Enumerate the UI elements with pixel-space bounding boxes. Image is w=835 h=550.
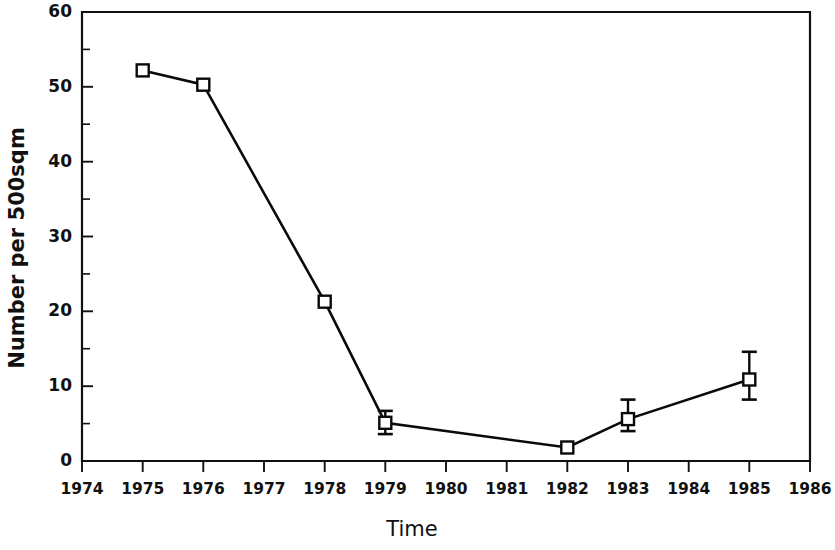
data-point-1979	[379, 417, 391, 429]
y-tick-label-30: 30	[48, 226, 72, 246]
chart-figure: 0 10 20 30 40 50 60 1974 1975	[0, 0, 835, 550]
line-chart-svg: 0 10 20 30 40 50 60 1974 1975	[0, 0, 835, 550]
y-tick-label-60: 60	[48, 1, 72, 21]
x-tick-label-1981: 1981	[485, 480, 528, 498]
x-tick-label-1976: 1976	[182, 480, 225, 498]
y-tick-label-0: 0	[60, 450, 72, 470]
x-tick-label-1986: 1986	[788, 480, 831, 498]
data-point-1976	[197, 79, 209, 91]
x-tick-label-1978: 1978	[303, 480, 346, 498]
x-axis-ticks	[82, 461, 810, 472]
x-tick-label-1977: 1977	[242, 480, 285, 498]
y-tick-label-40: 40	[48, 151, 72, 171]
y-tick-label-50: 50	[48, 76, 72, 96]
x-tick-label-1985: 1985	[728, 480, 771, 498]
y-axis-title: Number per 500sqm	[5, 127, 29, 369]
plot-frame	[82, 12, 810, 461]
data-point-1978	[319, 296, 331, 308]
x-tick-label-1983: 1983	[606, 480, 649, 498]
series-line-number-per-500sqm	[143, 70, 750, 447]
x-tick-label-1979: 1979	[364, 480, 407, 498]
data-series-group	[143, 70, 750, 447]
y-tick-label-20: 20	[48, 300, 72, 320]
data-point-1975	[137, 64, 149, 76]
x-tick-label-1980: 1980	[424, 480, 467, 498]
x-axis-title: Time	[385, 517, 437, 541]
data-point-1982	[561, 442, 573, 454]
data-point-1985	[743, 374, 755, 386]
x-tick-label-1982: 1982	[546, 480, 589, 498]
error-bars-group	[378, 352, 757, 434]
axes-box	[82, 12, 810, 461]
x-tick-label-1975: 1975	[121, 480, 164, 498]
x-tick-label-1974: 1974	[60, 480, 103, 498]
y-axis-ticks	[82, 12, 93, 461]
x-axis-tick-labels: 1974 1975 1976 1977 1978 1979 1980 1981 …	[60, 480, 831, 498]
data-markers-group	[137, 64, 756, 453]
y-tick-label-10: 10	[48, 375, 72, 395]
x-tick-label-1984: 1984	[667, 480, 710, 498]
data-point-1983	[622, 413, 634, 425]
y-axis-tick-labels: 0 10 20 30 40 50 60	[48, 1, 72, 470]
